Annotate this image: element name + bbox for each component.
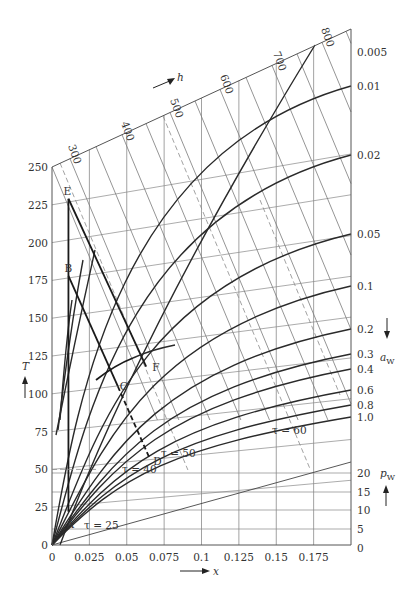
tau-label: τ = 25 xyxy=(84,519,119,531)
t-axis-label: T xyxy=(22,360,30,372)
y-tick-label: 0 xyxy=(41,539,48,551)
pw-axis-arrow-icon xyxy=(383,485,389,506)
y-tick-label: 50 xyxy=(35,463,48,475)
aw-tick-label: 0.3 xyxy=(357,348,374,360)
point-label-b: B xyxy=(64,262,72,274)
psychrometric-chart: 00.0250.050.0750.10.1250.150.17502550751… xyxy=(0,0,414,598)
x-tick-label: 0.075 xyxy=(149,551,179,563)
aw-tick-label: 0.02 xyxy=(357,149,380,161)
aw-tick-label: 0.01 xyxy=(357,80,380,92)
point-label-e: E xyxy=(63,185,71,197)
pw-tick-label: 0 xyxy=(357,542,364,554)
aw-tick-label: 0.005 xyxy=(357,46,387,58)
aw-axis-label: aW xyxy=(380,351,395,366)
enthalpy-line xyxy=(346,31,351,43)
aw-tick-label: 0.8 xyxy=(357,399,374,411)
pw-tick-label: 15 xyxy=(357,486,370,498)
y-tick-label: 75 xyxy=(35,426,48,438)
h-tick-label: 300 xyxy=(66,143,84,166)
y-tick-label: 125 xyxy=(28,350,48,362)
enthalpy-line xyxy=(272,65,351,255)
x-axis-label: x xyxy=(213,565,219,577)
enthalpy-line xyxy=(195,101,328,420)
tau-label: τ = 50 xyxy=(161,447,196,459)
y-tick-label: 25 xyxy=(35,501,48,513)
x-tick-label: 0.15 xyxy=(265,551,288,563)
aw-tick-label: 0.2 xyxy=(357,323,374,335)
aw-tick-label: 0.05 xyxy=(357,228,380,240)
y-tick-label: 100 xyxy=(28,388,48,400)
x-tick-label: 0.125 xyxy=(224,551,254,563)
aw-axis-arrow-icon xyxy=(384,318,390,339)
h-axis-arrow-icon xyxy=(153,78,175,88)
x-tick-label: 0.025 xyxy=(74,551,104,563)
aw-tick-label: 0.1 xyxy=(357,280,374,292)
tau-label: τ = 40 xyxy=(122,463,157,475)
point-label-c: C xyxy=(120,380,128,392)
pw-axis-label: pW xyxy=(380,467,396,482)
h-tick-label: 800 xyxy=(319,26,337,49)
x-tick-label: 0.1 xyxy=(193,551,210,563)
enthalpy-line xyxy=(322,42,351,112)
axis-labels: 00.0250.050.0750.10.1250.150.17502550751… xyxy=(28,26,387,563)
h-tick-label: 500 xyxy=(168,97,186,120)
enthalpy-line xyxy=(170,113,298,420)
process-path-e-f xyxy=(68,199,146,367)
aw-tick-label: 0.6 xyxy=(357,384,374,396)
pw-tick-label: 10 xyxy=(357,504,370,516)
point-label-a: A xyxy=(65,518,74,530)
y-tick-label: 200 xyxy=(28,237,48,249)
pw-tick-label: 5 xyxy=(357,523,364,535)
x-tick-label: 0 xyxy=(49,551,56,563)
h-tick-label: 400 xyxy=(119,120,137,143)
x-tick-label: 0.175 xyxy=(299,551,329,563)
y-tick-label: 225 xyxy=(28,199,48,211)
y-tick-label: 250 xyxy=(28,161,48,173)
y-tick-label: 175 xyxy=(28,274,48,286)
pw-tick-label: 20 xyxy=(357,467,370,479)
tau-label: τ = 60 xyxy=(272,424,307,436)
h-axis-label: h xyxy=(177,71,184,83)
x-axis-arrow-icon xyxy=(180,568,210,574)
enthalpy-line xyxy=(297,54,351,184)
aw-tick-label: 1.0 xyxy=(357,411,374,423)
aw-tick-label: 0.4 xyxy=(357,363,374,375)
water-activity-curve xyxy=(60,300,72,420)
y-tick-label: 150 xyxy=(28,312,48,324)
x-tick-label: 0.05 xyxy=(115,551,138,563)
point-label-f: F xyxy=(152,361,159,373)
